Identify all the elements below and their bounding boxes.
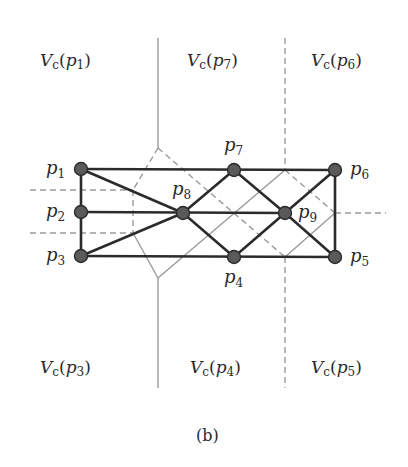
region-label-p5: Vc(p5)	[311, 357, 362, 379]
node-p2	[75, 206, 88, 219]
node-label-p2: p2	[46, 200, 65, 224]
node-label-p5: p5	[350, 245, 369, 269]
edge-p1-p8	[81, 169, 183, 213]
voronoi-diagram-figure: p1 p2 p3 p4 p5 p6 p7 p8 p9 Vc(p1) Vc(p7)…	[0, 0, 408, 467]
region-label-p4: Vc(p4)	[190, 357, 241, 379]
node-p7	[228, 164, 241, 177]
node-label-p8: p8	[172, 178, 191, 202]
node-label-p9: p9	[298, 201, 317, 225]
edge-p3-p5	[81, 256, 335, 257]
figure-caption: (b)	[196, 426, 219, 445]
node-p9	[279, 207, 292, 220]
node-p1	[75, 163, 88, 176]
region-label-p1: Vc(p1)	[40, 50, 91, 72]
region-label-p3: Vc(p3)	[40, 357, 91, 379]
node-label-p6: p6	[350, 158, 369, 182]
voronoi-edge-dashed	[158, 148, 285, 257]
node-p5	[329, 251, 342, 264]
region-label-p6: Vc(p6)	[311, 50, 362, 72]
node-p6	[329, 164, 342, 177]
region-label-p7: Vc(p7)	[187, 50, 238, 72]
node-label-p3: p3	[46, 244, 65, 268]
graph-edges	[81, 169, 335, 257]
node-label-p4: p4	[224, 266, 244, 290]
edge-p9-p6	[285, 170, 335, 213]
node-label-p7: p7	[224, 134, 243, 158]
node-p4	[228, 251, 241, 264]
edge-p1-p6	[81, 169, 335, 170]
node-label-p1: p1	[46, 157, 65, 181]
node-p8	[177, 207, 190, 220]
node-p3	[75, 250, 88, 263]
edge-p3-p8	[81, 213, 183, 256]
